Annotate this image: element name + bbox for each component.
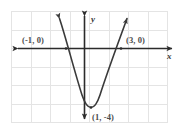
point-vertex [90, 106, 93, 109]
point-right-intercept [120, 47, 123, 50]
label-left-intercept: (-1, 0) [22, 36, 44, 45]
x-axis-label: x [167, 52, 172, 61]
graph-figure: (-1, 0) (3, 0) (1, -4) y x [0, 0, 182, 130]
y-axis-label: y [91, 15, 95, 24]
label-right-intercept: (3, 0) [126, 36, 145, 45]
label-vertex: (1, -4) [92, 113, 114, 122]
point-left-intercept [65, 47, 68, 50]
